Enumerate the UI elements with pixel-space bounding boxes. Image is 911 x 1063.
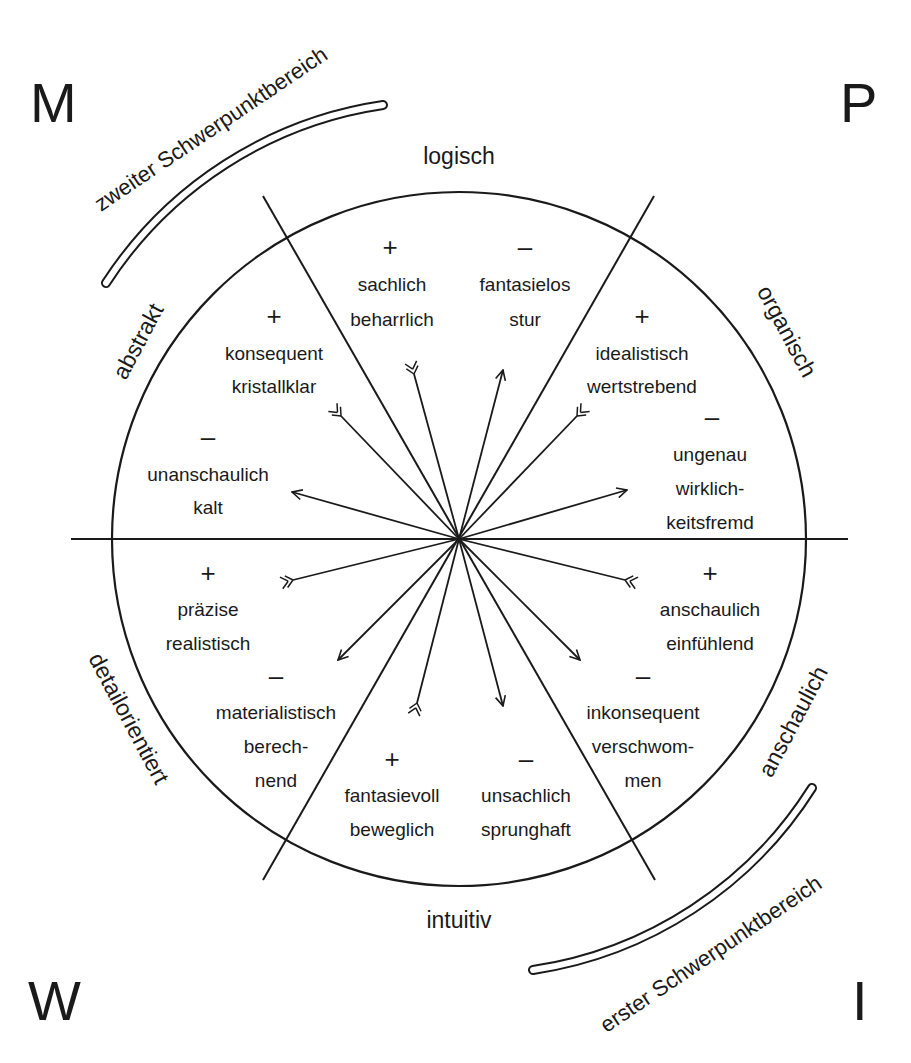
sector-line: idealistisch xyxy=(596,343,689,364)
plus-sign: + xyxy=(382,232,397,262)
sector-konsequent-kristallklar: + konsequent kristallklar xyxy=(225,301,324,397)
spoke-feather-fantasievoll xyxy=(417,539,459,703)
minus-sign: – xyxy=(636,661,651,691)
first-focus-band xyxy=(533,788,812,970)
axis-label-intuitiv: intuitiv xyxy=(426,907,492,933)
sector-line: men xyxy=(625,770,662,791)
second-focus-band-inner xyxy=(106,105,383,283)
minus-sign: – xyxy=(705,402,720,432)
corner-letter-p: P xyxy=(840,71,877,134)
plus-sign: + xyxy=(266,301,281,331)
sector-line: keitsfremd xyxy=(666,512,754,533)
plus-sign: + xyxy=(634,301,649,331)
sector-line: beharrlich xyxy=(350,309,433,330)
corner-letter-m: M xyxy=(30,71,77,134)
sector-line: wirklich- xyxy=(675,478,745,499)
spoke-arrow-ungenau xyxy=(459,490,627,539)
sector-fantasielos-stur: – fantasielos stur xyxy=(480,232,571,330)
sector-line: konsequent xyxy=(225,343,324,364)
spoke-feather-anschaulich xyxy=(459,539,625,580)
spoke-arrow-unsachlich xyxy=(459,539,503,706)
plus-sign: + xyxy=(702,558,717,588)
sector-line: unsachlich xyxy=(481,785,571,806)
plus-sign: + xyxy=(200,558,215,588)
sector-line: sprunghaft xyxy=(481,819,572,840)
sector-line: unanschaulich xyxy=(147,464,268,485)
brain-dominance-diagram: M P W I logisch intuitiv abstrakt organi… xyxy=(0,0,911,1063)
sector-line: realistisch xyxy=(166,633,250,654)
sector-line: inkonsequent xyxy=(586,702,700,723)
sector-idealistisch-wertstrebend: + idealistisch wertstrebend xyxy=(586,301,697,397)
sector-anschaulich-einfuehlend: + anschaulich einfühlend xyxy=(660,558,760,654)
sector-unanschaulich-kalt: – unanschaulich kalt xyxy=(147,422,268,518)
minus-sign: – xyxy=(518,232,533,262)
axis-label-anschaulich: anschaulich xyxy=(753,662,833,781)
sector-line: kristallklar xyxy=(232,376,317,397)
sector-line: nend xyxy=(255,770,297,791)
axis-label-abstrakt: abstrakt xyxy=(107,298,169,383)
sector-line: wertstrebend xyxy=(586,376,697,397)
sector-sachlich-beharrlich: + sachlich beharrlich xyxy=(350,232,433,330)
sector-line: stur xyxy=(509,309,541,330)
spoke-feather-praezise xyxy=(293,539,459,580)
sector-unsachlich-sprunghaft: – unsachlich sprunghaft xyxy=(481,744,572,840)
sector-line: anschaulich xyxy=(660,599,760,620)
corner-letter-w: W xyxy=(28,969,81,1032)
sector-line: materialistisch xyxy=(216,702,336,723)
sector-line: sachlich xyxy=(358,274,427,295)
axis-label-logisch: logisch xyxy=(423,143,495,169)
sector-line: kalt xyxy=(193,497,223,518)
sector-inkonsequent-verschwommen: – inkonsequent verschwom- men xyxy=(586,661,700,791)
sector-ungenau-wirklichkeitsfremd: – ungenau wirklich- keitsfremd xyxy=(666,402,754,533)
sector-line: berech- xyxy=(244,736,308,757)
sector-line: ungenau xyxy=(673,444,747,465)
axis-label-organisch: organisch xyxy=(752,281,822,381)
minus-sign: – xyxy=(201,422,216,452)
spoke-arrow-fantasielos xyxy=(459,370,503,539)
plus-sign: + xyxy=(384,744,399,774)
second-focus-band xyxy=(106,105,383,283)
minus-sign: – xyxy=(269,661,284,691)
sector-line: verschwom- xyxy=(592,736,694,757)
first-focus-band-inner xyxy=(533,788,812,970)
sector-fantasievoll-beweglich: + fantasievoll beweglich xyxy=(344,744,439,840)
sector-line: einfühlend xyxy=(666,633,754,654)
sector-materialistisch-berechnend: – materialistisch berech- nend xyxy=(216,661,336,791)
sector-line: beweglich xyxy=(350,819,435,840)
minus-sign: – xyxy=(519,744,534,774)
sector-line: fantasielos xyxy=(480,274,571,295)
sector-line: fantasievoll xyxy=(344,785,439,806)
spoke-arrow-unanschaulich xyxy=(292,492,459,539)
sector-line: präzise xyxy=(177,599,238,620)
corner-letter-i: I xyxy=(852,969,868,1032)
sector-praezise-realistisch: + präzise realistisch xyxy=(166,558,250,654)
